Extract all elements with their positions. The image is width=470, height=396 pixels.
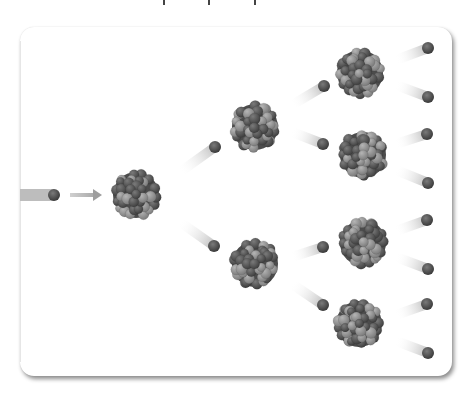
nucleus-gen2-top xyxy=(230,101,279,153)
diagram-layer xyxy=(20,42,434,359)
neutron-icon xyxy=(317,138,329,150)
neutron-icon xyxy=(317,241,329,253)
fission-chain-diagram xyxy=(0,0,470,396)
neutron-icon xyxy=(422,263,434,275)
nucleus-gen3-a xyxy=(335,48,384,99)
neutron-icon xyxy=(422,91,434,103)
neutron-trail xyxy=(180,222,214,246)
neutron-icon xyxy=(421,128,433,140)
nucleus-gen3-c xyxy=(339,217,389,269)
neutron-icon xyxy=(208,240,220,252)
neutron-trail xyxy=(180,147,215,172)
nucleus-gen3-b xyxy=(339,130,388,180)
neutron-icon xyxy=(48,189,60,201)
neutron-icon xyxy=(209,141,221,153)
nucleus-gen3-d xyxy=(333,299,384,347)
neutron-icon xyxy=(422,177,434,189)
neutron-icon xyxy=(318,80,330,92)
arrow-shaft xyxy=(70,193,94,197)
arrow-right-icon xyxy=(93,189,102,201)
neutron-icon xyxy=(317,299,329,311)
neutron-icon xyxy=(421,298,433,310)
neutron-icon xyxy=(422,42,434,54)
nucleus-gen2-bottom xyxy=(229,238,278,289)
nucleus-gen1 xyxy=(111,169,161,219)
neutron-icon xyxy=(421,214,433,226)
neutron-icon xyxy=(422,347,434,359)
